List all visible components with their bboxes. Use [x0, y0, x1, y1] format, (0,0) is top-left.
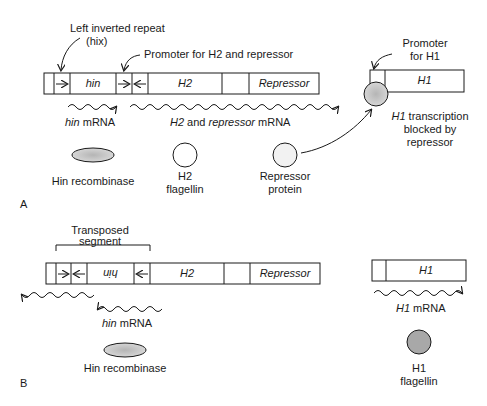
label-h1-blocked-2: blocked by	[375, 123, 485, 136]
gene-hin-inverted: hin	[87, 267, 134, 280]
label-h2-flagellin-1: H2	[160, 170, 210, 183]
label-promoter-h2: Promoter for H2 and repressor	[144, 48, 293, 61]
gene-name: repressor	[209, 116, 255, 128]
gene-name: H2	[170, 116, 184, 128]
label-h2-repressor-mrna: H2 and repressor mRNA	[170, 116, 290, 129]
gene-hin: hin	[70, 77, 116, 90]
gene-repressor: Repressor	[249, 77, 319, 90]
gene-name: hin	[102, 317, 117, 329]
label-hin-mrna: hin mRNA	[65, 116, 115, 129]
gene-h1-b: H1	[386, 264, 466, 277]
label-promoter-h1-1: Promoter	[395, 37, 455, 50]
label-h2-flagellin-2: flagellin	[160, 183, 210, 196]
panel-b-label: B	[20, 377, 27, 390]
conjunction: and	[184, 116, 208, 128]
label-repressor-protein-2: protein	[255, 183, 315, 196]
gene-name: H1	[391, 110, 405, 122]
mrna-suffix: mRNA	[80, 116, 115, 128]
label-repressor-protein-1: Repressor	[255, 170, 315, 183]
label-h1-mrna: H1 mRNA	[396, 302, 446, 315]
gene-h2-b: H2	[150, 267, 224, 280]
label-h1-flagellin-1: H1	[394, 362, 444, 375]
label-left-inverted-repeat: Left inverted repeat	[70, 22, 165, 35]
label-hin-recombinase-b: Hin recombinase	[75, 362, 175, 375]
mrna-suffix: mRNA	[410, 302, 445, 314]
mrna-suffix: mRNA	[117, 317, 152, 329]
label-promoter-h1-2: for H1	[395, 50, 455, 63]
label-hin-mrna-b: hin mRNA	[102, 317, 152, 330]
label-hix: (hix)	[86, 35, 107, 48]
panel-a-label: A	[20, 198, 27, 211]
inverted-gene-text: hin	[103, 267, 118, 280]
label-h1-blocked-3: repressor	[375, 136, 485, 149]
gene-name: H1	[396, 302, 410, 314]
blocked-text: transcription	[406, 110, 469, 122]
label-h1-flagellin-2: flagellin	[394, 375, 444, 388]
gene-h2: H2	[148, 77, 222, 90]
gene-name: hin	[65, 116, 80, 128]
mrna-suffix: mRNA	[255, 116, 290, 128]
label-hin-recombinase: Hin recombinase	[43, 175, 143, 188]
gene-repressor-b: Repressor	[250, 267, 320, 280]
label-h1-blocked-1: H1 transcription	[375, 110, 485, 123]
label-transposed-2: segment	[60, 235, 140, 248]
gene-h1: H1	[385, 74, 464, 87]
